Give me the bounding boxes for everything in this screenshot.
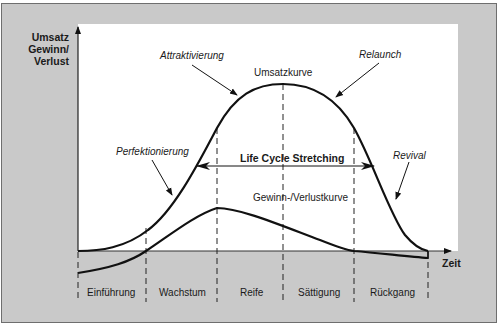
arrow-revival bbox=[396, 162, 409, 199]
life-cycle-stretching-label: Life Cycle Stretching bbox=[240, 152, 344, 164]
phase-label-reife: Reife bbox=[240, 287, 263, 299]
annotation-revival: Revival bbox=[393, 150, 426, 162]
revenue-curve-label: Umsatzkurve bbox=[254, 67, 312, 79]
y-axis-label-line-1: Umsatz bbox=[14, 31, 69, 43]
phase-label-einfuehrung: Einführung bbox=[87, 287, 135, 299]
phase-label-rueckgang: Rückgang bbox=[370, 287, 415, 299]
annotation-perfektionierung: Perfektionierung bbox=[116, 146, 189, 158]
annotation-relaunch: Relaunch bbox=[359, 49, 401, 61]
product-life-cycle-diagram bbox=[0, 0, 502, 328]
arrow-perfektionierung bbox=[152, 160, 172, 195]
profit-curve-label: Gewinn-/Verlustkurve bbox=[253, 192, 348, 204]
y-axis-label: Umsatz Gewinn/ Verlust bbox=[14, 31, 69, 67]
arrow-attraktivierung bbox=[192, 65, 237, 95]
phase-label-wachstum: Wachstum bbox=[159, 287, 206, 299]
phase-label-saettigung: Sättigung bbox=[298, 287, 340, 299]
revenue-curve bbox=[78, 84, 428, 251]
y-axis-label-line-2: Gewinn/ bbox=[14, 43, 69, 55]
x-axis-label: Zeit bbox=[442, 257, 461, 269]
arrow-relaunch bbox=[336, 63, 379, 97]
y-axis-label-line-3: Verlust bbox=[14, 55, 69, 67]
annotation-attraktivierung: Attraktivierung bbox=[160, 50, 224, 62]
